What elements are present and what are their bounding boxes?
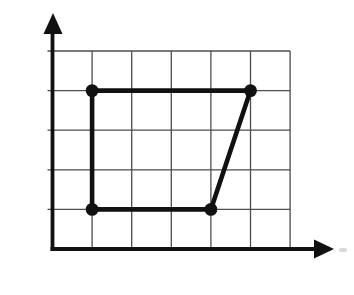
x-axis-arrowhead-icon [314,240,334,259]
vertex-dot-c [205,203,218,216]
vertex-dot-b [244,84,257,97]
coordinate-plane-figure [0,0,354,295]
y-axis-arrowhead-icon [44,13,63,34]
vertex-dot-a [86,84,99,97]
vertex-dot-d [86,203,99,216]
scan-artifact [339,248,347,252]
figure-svg [0,0,354,295]
